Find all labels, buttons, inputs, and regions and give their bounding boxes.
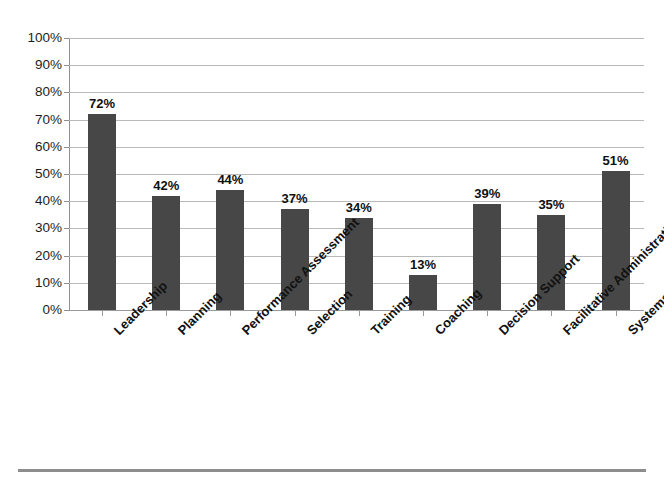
y-axis-tick-90%	[64, 65, 69, 66]
y-axis-tick-20%	[64, 256, 69, 257]
x-axis-tick	[295, 311, 296, 316]
x-axis-category-labels: LeadershipPlanningPerformance Assessment…	[0, 0, 664, 480]
x-axis-tick	[487, 311, 488, 316]
x-axis-tick	[616, 311, 617, 316]
x-axis-label-training: Training	[368, 328, 377, 337]
y-axis-tick-50%	[64, 174, 69, 175]
bottom-divider-rule	[18, 469, 646, 472]
y-axis-tick-100%	[64, 38, 69, 39]
x-axis-label-decision-support: Decision Support	[497, 328, 506, 337]
x-axis-tick	[359, 311, 360, 316]
y-axis-tick-80%	[64, 92, 69, 93]
x-axis-tick	[166, 311, 167, 316]
y-axis-tick-40%	[64, 201, 69, 202]
x-axis-label-planning: Planning	[176, 328, 185, 337]
x-axis-tick	[230, 311, 231, 316]
y-axis-tick-0%	[64, 310, 69, 311]
y-axis-tick-30%	[64, 228, 69, 229]
x-axis-label-performance-assessment: Performance Assessment	[240, 328, 249, 337]
y-axis-tick-70%	[64, 120, 69, 121]
bar-chart-figure: 0%10%20%30%40%50%60%70%80%90%100% 72%42%…	[0, 0, 664, 480]
x-axis-label-selection: Selection	[304, 328, 313, 337]
x-axis-tick	[423, 311, 424, 316]
x-axis-label-leadership: Leadership	[111, 328, 120, 337]
y-axis-tick-60%	[64, 147, 69, 148]
y-axis-tick-10%	[64, 283, 69, 284]
x-axis-tick	[102, 311, 103, 316]
x-axis-label-coaching: Coaching	[432, 328, 441, 337]
x-axis-label-systems-intervention: Systems Intervention	[625, 328, 634, 337]
x-axis-label-facilitative-administration: Facilitative Administration	[561, 328, 570, 337]
x-axis-tick	[551, 311, 552, 316]
